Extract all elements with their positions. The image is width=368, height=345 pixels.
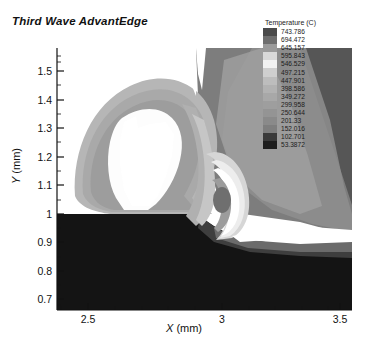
y-tick-label: 1.1 [28,179,52,191]
legend-entry: 102.701 [263,133,305,141]
contour-plot-figure: Third Wave AdvantEdge [0,0,368,345]
legend-entry: 398.586 [263,85,305,93]
plot-canvas [0,0,368,345]
legend-entry: 743.786 [263,28,305,36]
legend-entry: 299.958 [263,101,305,109]
legend-entry: 349.272 [263,93,305,101]
x-axis-unit: (mm) [176,322,202,334]
legend-color-swatch [263,133,277,141]
legend-value-label: 398.586 [281,85,305,93]
legend-color-swatch [263,93,277,101]
legend-value-label: 447.901 [281,77,305,85]
legend-color-swatch [263,117,277,125]
legend-entry: 595.843 [263,52,305,60]
legend-entries: 743.786694.472645.157595.843546.529497.2… [263,28,305,149]
legend-color-swatch [263,52,277,60]
legend-color-swatch [263,141,277,149]
y-tick-label: 1.4 [28,94,52,106]
legend-color-swatch [263,109,277,117]
y-tick-label: 0.8 [28,265,52,277]
legend-entry: 152.016 [263,125,305,133]
legend-color-swatch [263,36,277,44]
y-tick-label: 1.2 [28,151,52,163]
legend-value-label: 595.843 [281,52,305,60]
tool-tip-nose [213,187,231,213]
legend-entry: 546.529 [263,60,305,68]
y-tick-label: 1 [28,208,52,220]
legend-entry: 250.644 [263,109,305,117]
legend-value-label: 102.701 [281,133,305,141]
legend-title: Temperature (C) [265,19,316,26]
legend-color-swatch [263,60,277,68]
legend-value-label: 694.472 [281,36,305,44]
legend-value-label: 349.272 [281,93,305,101]
y-axis-title: Y (mm) [10,136,22,196]
contour-field [57,48,352,310]
y-axis-variable: Y [10,177,22,184]
y-tick-label: 1.5 [28,65,52,77]
y-tick-label: 0.9 [28,236,52,248]
legend-color-swatch [263,77,277,85]
legend-value-label: 497.215 [281,69,305,77]
legend-color-swatch [263,125,277,133]
y-tick-label: 0.7 [28,293,52,305]
legend-value-label: 201.33 [281,117,301,125]
legend-color-swatch [263,28,277,36]
legend-color-swatch [263,101,277,109]
legend-value-label: 645.157 [281,44,305,52]
legend-value-label: 53.3872 [281,141,305,149]
legend-entry: 645.157 [263,44,305,52]
legend-value-label: 299.958 [281,101,305,109]
legend-value-label: 152.016 [281,125,305,133]
legend-color-swatch [263,44,277,52]
legend-entry: 53.3872 [263,141,305,149]
legend-entry: 447.901 [263,77,305,85]
legend-entry: 201.33 [263,117,305,125]
legend-value-label: 743.786 [281,28,305,36]
legend-entry: 497.215 [263,68,305,76]
y-tick-label: 1.3 [28,122,52,134]
legend-color-swatch [263,68,277,76]
legend-value-label: 546.529 [281,60,305,68]
x-axis-title: X (mm) [0,322,368,334]
legend-color-swatch [263,85,277,93]
legend-value-label: 250.644 [281,109,305,117]
legend-entry: 694.472 [263,36,305,44]
y-axis-unit: (mm) [10,148,22,174]
